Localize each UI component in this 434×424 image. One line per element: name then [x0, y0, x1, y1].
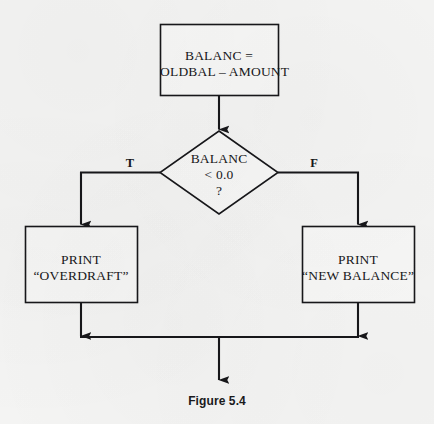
process-print-new-balance-line-1: PRINT [302, 252, 414, 268]
branch-label-false: F [305, 156, 323, 171]
figure-canvas: BALANC = OLDBAL – AMOUNT BALANC < 0.0 ? … [0, 0, 434, 424]
process-print-overdraft-line-1: PRINT [25, 252, 137, 268]
edge-decision-false [278, 173, 358, 225]
decision-balance-line-3: ? [159, 183, 279, 199]
decision-balance-line-1: BALANC [159, 151, 279, 167]
branch-label-true: T [121, 156, 139, 171]
process-balance-label: BALANC = OLDBAL – AMOUNT [160, 48, 278, 80]
edge-decision-true [81, 173, 160, 225]
process-balance-line-2: OLDBAL – AMOUNT [160, 64, 278, 80]
decision-balance-label: BALANC < 0.0 ? [159, 151, 279, 199]
process-print-new-balance-label: PRINT “NEW BALANCE” [302, 252, 414, 284]
process-balance-line-1: BALANC = [160, 48, 278, 64]
process-print-overdraft-label: PRINT “OVERDRAFT” [25, 252, 137, 284]
process-print-new-balance-line-2: “NEW BALANCE” [302, 268, 414, 284]
process-print-overdraft-line-2: “OVERDRAFT” [25, 268, 137, 284]
decision-balance-line-2: < 0.0 [159, 167, 279, 183]
figure-caption: Figure 5.4 [0, 394, 434, 408]
